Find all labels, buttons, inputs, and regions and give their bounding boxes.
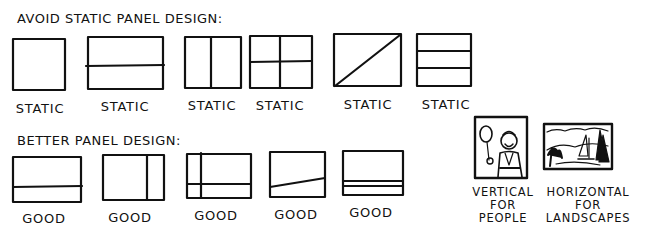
static-panel-diagonal-split (334, 34, 401, 86)
static-panel-square (13, 39, 65, 90)
horizontal-caption: HORIZONTAL FOR LANDSCAPES (542, 186, 634, 225)
good-label: GOOD (16, 211, 72, 226)
static-label: STATIC (337, 97, 399, 112)
horizontal-caption-line3: LANDSCAPES (542, 212, 634, 225)
static-label: STATIC (416, 97, 476, 112)
static-panel-quad-split (250, 36, 312, 88)
good-label: GOOD (343, 205, 399, 220)
vertical-people-example (475, 117, 527, 178)
vertical-caption-line3: PEOPLE (470, 212, 536, 225)
good-label: GOOD (188, 208, 244, 223)
vertical-caption: VERTICAL FOR PEOPLE (470, 186, 536, 225)
horizontal-landscape-example (544, 124, 612, 169)
static-panel-horizontal-split (86, 37, 164, 89)
good-panel-double-line (343, 151, 403, 195)
good-panel-low-split (13, 157, 82, 202)
good-panel-right-split (103, 155, 164, 200)
static-label: STATIC (182, 98, 242, 113)
good-label: GOOD (268, 207, 324, 222)
static-panel-vertical-split (185, 37, 241, 88)
good-panel-slanted-split (270, 152, 325, 197)
static-label: STATIC (250, 98, 310, 113)
static-panel-three-rows (417, 34, 471, 86)
static-label: STATIC (10, 101, 70, 116)
avoid-heading: AVOID STATIC PANEL DESIGN: (17, 11, 223, 26)
static-label: STATIC (92, 99, 158, 114)
better-heading: BETTER PANEL DESIGN: (17, 133, 181, 148)
good-label: GOOD (102, 210, 158, 225)
good-panel-offset-cross (187, 153, 251, 198)
